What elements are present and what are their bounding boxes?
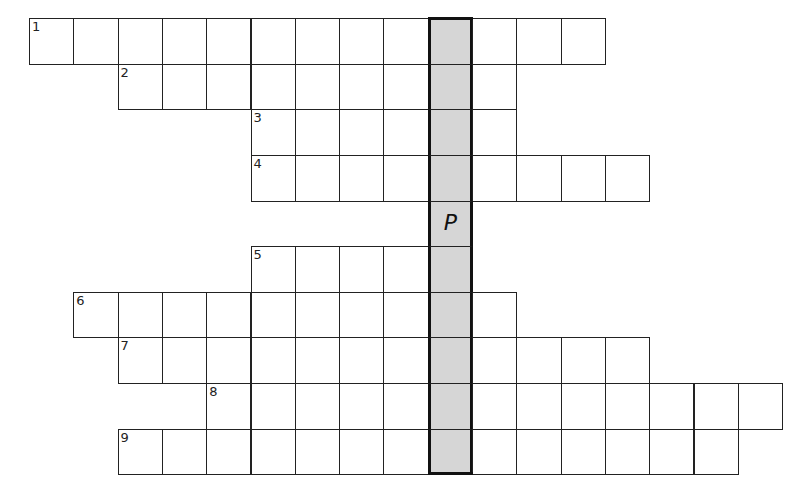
- crossword-cell[interactable]: 1: [29, 18, 74, 65]
- clue-number: 9: [121, 430, 129, 445]
- crossword-cell[interactable]: [694, 383, 739, 430]
- crossword-cell[interactable]: [649, 383, 694, 430]
- crossword-cell[interactable]: [472, 109, 517, 156]
- crossword-cell[interactable]: [251, 64, 296, 111]
- crossword-cell[interactable]: [206, 429, 251, 476]
- shaded-answer-cell[interactable]: [428, 292, 473, 339]
- crossword-cell[interactable]: [516, 18, 561, 65]
- crossword-cell[interactable]: [605, 155, 650, 202]
- crossword-cell[interactable]: [339, 246, 384, 293]
- crossword-cell[interactable]: [383, 292, 428, 339]
- crossword-cell[interactable]: [472, 64, 517, 111]
- crossword-cell[interactable]: [162, 64, 207, 111]
- crossword-cell[interactable]: [738, 383, 783, 430]
- crossword-cell[interactable]: [295, 429, 340, 476]
- crossword-cell[interactable]: [206, 337, 251, 384]
- crossword-cell[interactable]: [118, 18, 163, 65]
- crossword-cell[interactable]: [605, 429, 650, 476]
- crossword-cell[interactable]: [162, 18, 207, 65]
- shaded-answer-cell[interactable]: P: [428, 201, 473, 248]
- crossword-cell[interactable]: [251, 429, 296, 476]
- crossword-cell[interactable]: 5: [251, 246, 296, 293]
- crossword-cell[interactable]: [472, 337, 517, 384]
- crossword-cell[interactable]: [251, 383, 296, 430]
- crossword-cell[interactable]: [561, 429, 606, 476]
- crossword-cell[interactable]: [383, 109, 428, 156]
- shaded-answer-cell[interactable]: [428, 109, 473, 156]
- clue-number: 5: [254, 247, 262, 262]
- crossword-cell[interactable]: [605, 337, 650, 384]
- crossword-cell[interactable]: [295, 246, 340, 293]
- crossword-cell[interactable]: [561, 337, 606, 384]
- crossword-cell[interactable]: [206, 292, 251, 339]
- shaded-answer-cell[interactable]: [428, 155, 473, 202]
- crossword-cell[interactable]: 3: [251, 109, 296, 156]
- crossword-cell[interactable]: [472, 155, 517, 202]
- crossword-cell[interactable]: [295, 383, 340, 430]
- crossword-cell[interactable]: [339, 383, 384, 430]
- clue-number: 8: [209, 384, 217, 399]
- crossword-cell[interactable]: [73, 18, 118, 65]
- crossword-cell[interactable]: [339, 292, 384, 339]
- shaded-answer-cell[interactable]: [428, 246, 473, 293]
- crossword-cell[interactable]: [605, 383, 650, 430]
- crossword-cell[interactable]: [472, 383, 517, 430]
- crossword-cell[interactable]: [339, 429, 384, 476]
- shaded-answer-cell[interactable]: [428, 429, 473, 476]
- crossword-cell[interactable]: [561, 155, 606, 202]
- crossword-cell[interactable]: [561, 18, 606, 65]
- crossword-cell[interactable]: [295, 18, 340, 65]
- crossword-cell[interactable]: [339, 155, 384, 202]
- crossword-cell[interactable]: [295, 64, 340, 111]
- crossword-cell[interactable]: 2: [118, 64, 163, 111]
- crossword-cell[interactable]: [516, 155, 561, 202]
- crossword-cell[interactable]: 6: [73, 292, 118, 339]
- shaded-column-bottom-border: [428, 472, 473, 475]
- crossword-cell[interactable]: [383, 429, 428, 476]
- crossword-cell[interactable]: 4: [251, 155, 296, 202]
- shaded-column-top-border: [428, 17, 473, 20]
- crossword-cell[interactable]: [118, 292, 163, 339]
- crossword-cell[interactable]: [561, 383, 606, 430]
- crossword-cell[interactable]: [516, 337, 561, 384]
- crossword-cell[interactable]: [162, 429, 207, 476]
- crossword-cell[interactable]: [295, 109, 340, 156]
- crossword-cell[interactable]: [206, 64, 251, 111]
- crossword-cell[interactable]: [383, 155, 428, 202]
- shaded-answer-cell[interactable]: [428, 18, 473, 65]
- crossword-cell[interactable]: [516, 383, 561, 430]
- clue-number: 3: [254, 110, 262, 125]
- crossword-cell[interactable]: [295, 337, 340, 384]
- crossword-cell[interactable]: [295, 155, 340, 202]
- crossword-cell[interactable]: [516, 429, 561, 476]
- crossword-cell[interactable]: [472, 429, 517, 476]
- crossword-cell[interactable]: [295, 292, 340, 339]
- crossword-cell[interactable]: 7: [118, 337, 163, 384]
- crossword-cell[interactable]: [251, 18, 296, 65]
- crossword-cell[interactable]: [383, 337, 428, 384]
- crossword-cell[interactable]: [162, 292, 207, 339]
- shaded-answer-cell[interactable]: [428, 64, 473, 111]
- crossword-cell[interactable]: [162, 337, 207, 384]
- shaded-answer-cell[interactable]: [428, 383, 473, 430]
- crossword-cell[interactable]: [251, 337, 296, 384]
- crossword-cell[interactable]: 9: [118, 429, 163, 476]
- crossword-cell[interactable]: [472, 18, 517, 65]
- crossword-cell[interactable]: [339, 109, 384, 156]
- crossword-cell[interactable]: [383, 383, 428, 430]
- crossword-cell[interactable]: [694, 429, 739, 476]
- crossword-cell[interactable]: [339, 64, 384, 111]
- crossword-cell[interactable]: [383, 246, 428, 293]
- crossword-cell[interactable]: [206, 18, 251, 65]
- crossword-cell[interactable]: 8: [206, 383, 251, 430]
- shaded-answer-cell[interactable]: [428, 337, 473, 384]
- crossword-grid: 1234P56789: [0, 0, 795, 495]
- crossword-cell[interactable]: [472, 292, 517, 339]
- clue-number: 2: [121, 65, 129, 80]
- crossword-cell[interactable]: [251, 292, 296, 339]
- crossword-cell[interactable]: [339, 337, 384, 384]
- crossword-cell[interactable]: [383, 64, 428, 111]
- crossword-cell[interactable]: [339, 18, 384, 65]
- crossword-cell[interactable]: [383, 18, 428, 65]
- crossword-cell[interactable]: [649, 429, 694, 476]
